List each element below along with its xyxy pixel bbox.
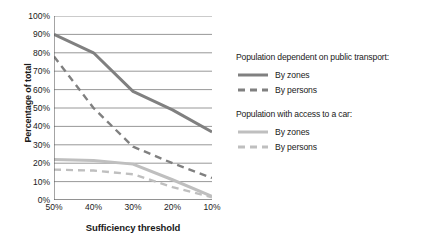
legend-group-title: Population dependent on public transport… [236,52,418,63]
legend-line-swatch [238,85,268,95]
x-tick-label: 10% [192,203,232,212]
x-axis-title: Sufficiency threshold [54,222,212,233]
legend-line-swatch [238,142,268,152]
legend-entry[interactable]: By persons [236,140,418,153]
series-line [54,34,212,132]
y-tick-label: 10% [14,178,50,187]
legend-entry-label: By zones [275,70,310,80]
legend-group: Population dependent on public transport… [236,52,418,96]
x-tick-label: 30% [113,203,153,212]
legend-entry[interactable]: By zones [236,68,418,81]
y-tick-label: 60% [14,86,50,95]
y-tick-label: 90% [14,30,50,39]
y-tick-label: 40% [14,122,50,131]
y-tick-label: 100% [14,12,50,21]
y-tick-label: 30% [14,141,50,150]
plot-area [54,16,212,200]
legend-entry[interactable]: By zones [236,125,418,138]
y-tick-label: 70% [14,67,50,76]
legend-line-swatch [238,127,268,137]
legend-entry-label: By persons [275,142,317,152]
legend-group: Population with access to a car:By zones… [236,109,418,153]
legend-entry[interactable]: By persons [236,83,418,96]
x-tick-label: 50% [34,203,74,212]
chart-figure: Percentage of total 0%10%20%30%40%50%60%… [0,0,421,244]
plot-svg [54,16,212,200]
legend-entry-label: By zones [275,127,310,137]
y-tick-label: 20% [14,159,50,168]
legend-line-swatch [238,70,268,80]
legend-entry-label: By persons [275,85,317,95]
series-line [54,170,212,198]
y-tick-label: 80% [14,49,50,58]
x-tick-label: 20% [153,203,193,212]
x-tick-label: 40% [74,203,114,212]
chart-legend: Population dependent on public transport… [236,52,418,166]
legend-group-title: Population with access to a car: [236,109,418,120]
y-tick-label: 50% [14,104,50,113]
